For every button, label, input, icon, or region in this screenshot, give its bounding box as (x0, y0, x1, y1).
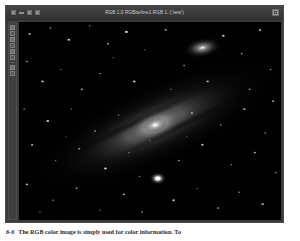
figure-page: RGB 1.0 RGBbefore1.RGB 1..('new') (0, 0, 300, 241)
toolbar-divider (10, 62, 15, 63)
image-canvas[interactable] (19, 22, 281, 220)
tool-curves-icon[interactable] (10, 65, 15, 70)
tool-crop-icon[interactable] (10, 37, 15, 42)
galaxy-rendering (19, 22, 281, 220)
figure-caption: 6-6The RGB color image is simply used fo… (6, 228, 296, 236)
figure-caption-text: The RGB color image is simply used for c… (18, 228, 181, 235)
left-toolbar[interactable] (8, 22, 17, 220)
maximize-button[interactable] (272, 9, 279, 16)
window-title-bar[interactable]: RGB 1.0 RGBbefore1.RGB 1..('new') (6, 6, 283, 20)
minimize-button[interactable] (19, 12, 24, 14)
window-controls (6, 10, 40, 15)
menu-button[interactable] (35, 10, 40, 15)
figure-number: 6-6 (6, 228, 14, 235)
close-button[interactable] (11, 10, 16, 15)
window-body (6, 20, 283, 222)
window-title: RGB 1.0 RGBbefore1.RGB 1..('new') (6, 8, 283, 17)
tool-measure-icon[interactable] (10, 49, 15, 54)
astronomy-image (19, 22, 281, 220)
restore-button[interactable] (27, 10, 32, 15)
tool-pan-icon[interactable] (10, 43, 15, 48)
tool-info-icon[interactable] (10, 71, 15, 76)
tool-zoom-icon[interactable] (10, 31, 15, 36)
tool-levels-icon[interactable] (10, 55, 15, 60)
tool-pointer-icon[interactable] (10, 25, 15, 30)
image-viewer-window[interactable]: RGB 1.0 RGBbefore1.RGB 1..('new') (5, 5, 284, 223)
